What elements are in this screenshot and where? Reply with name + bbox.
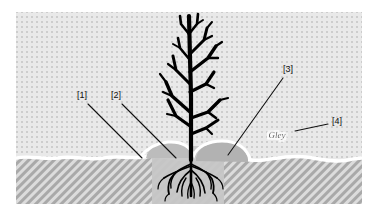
callout-label-1: [1] [77, 90, 87, 100]
callout-label-3: [3] [283, 64, 293, 74]
diagram-canvas: [1] [2] [3] [4] Gley [0, 0, 378, 220]
callout-label-4: [4] [332, 116, 342, 126]
soil-profile-figure: [1] [2] [3] [4] Gley [0, 0, 378, 220]
callout-label-2: [2] [111, 90, 121, 100]
gley-annotation: Gley [269, 130, 286, 140]
